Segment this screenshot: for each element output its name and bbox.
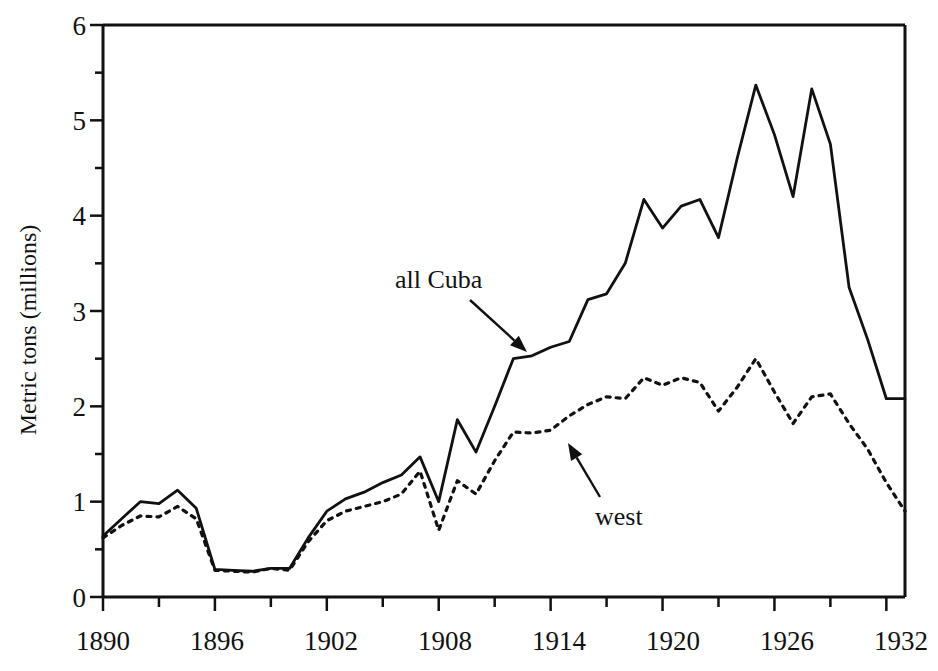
x-tick-label-1926: 1926 <box>760 626 814 656</box>
x-tick-label-1890: 1890 <box>76 626 130 656</box>
x-tick-label-1902: 1902 <box>304 626 358 656</box>
y-tick-label-0: 0 <box>73 583 87 613</box>
y-tick-label-2: 2 <box>73 392 87 422</box>
plot-frame <box>103 25 905 597</box>
x-tick-label-1908: 1908 <box>418 626 472 656</box>
y-axis-title: Metric tons (millions) <box>15 225 41 436</box>
annotation-label-all-cuba: all Cuba <box>395 265 483 294</box>
x-tick-label-1932: 1932 <box>874 626 928 656</box>
chart-figure: Metric tons (millions) 6 5 4 3 2 1 0 189… <box>0 0 938 671</box>
annotation-all-cuba: all Cuba <box>395 265 527 352</box>
series-line-all-cuba <box>103 85 905 571</box>
annotation-arrowhead-west <box>568 443 582 461</box>
x-tick-label-1896: 1896 <box>190 626 244 656</box>
y-tick-label-3: 3 <box>73 297 87 327</box>
annotation-label-west: west <box>595 502 643 531</box>
line-chart-canvas: Metric tons (millions) 6 5 4 3 2 1 0 189… <box>0 0 938 671</box>
x-tick-label-1914: 1914 <box>532 626 587 656</box>
annotation-arrow-west <box>577 458 600 497</box>
annotation-arrow-all-cuba <box>470 300 514 341</box>
y-tick-label-1: 1 <box>73 487 87 517</box>
x-tick-label-1920: 1920 <box>646 626 700 656</box>
y-tick-label-5: 5 <box>73 106 87 136</box>
series-line-west <box>103 359 905 573</box>
y-tick-label-4: 4 <box>73 201 87 231</box>
annotation-west: west <box>568 443 643 531</box>
y-tick-label-6: 6 <box>73 11 87 41</box>
